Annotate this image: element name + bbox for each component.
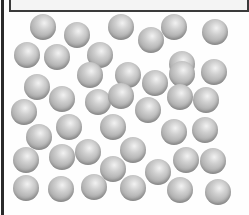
particle [100,114,126,140]
particle [30,14,56,40]
particle [56,114,82,140]
particle [205,179,231,205]
particle [11,99,37,125]
particle [120,175,146,201]
particle [142,70,168,96]
particle [13,175,39,201]
particle [64,22,90,48]
particle [26,124,52,150]
particle [48,176,74,202]
particle [75,139,101,165]
particle [138,27,164,53]
particle [13,147,39,173]
particle [192,117,218,143]
particle [161,14,187,40]
particle [77,62,103,88]
container [0,0,249,215]
particle [49,144,75,170]
particle [200,148,226,174]
particle [24,74,50,100]
particle [85,89,111,115]
particle [169,61,195,87]
particle [193,87,219,113]
particle [108,14,134,40]
particle [108,83,134,109]
particle [120,137,146,163]
particle [49,86,75,112]
particle [135,97,161,123]
particle [44,44,70,70]
container-left-wall [1,0,4,215]
particle [14,42,40,68]
particle [81,174,107,200]
particle [202,19,228,45]
container-lid [9,0,249,12]
particle [167,177,193,203]
particle [173,147,199,173]
particle [167,84,193,110]
particle [201,59,227,85]
particle [145,159,171,185]
particle [161,119,187,145]
